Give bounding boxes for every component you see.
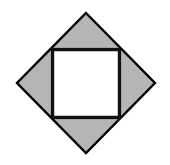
- inner-square-shape: [52, 49, 120, 118]
- geometric-figure-svg: [0, 0, 170, 165]
- figure-canvas: [0, 0, 170, 165]
